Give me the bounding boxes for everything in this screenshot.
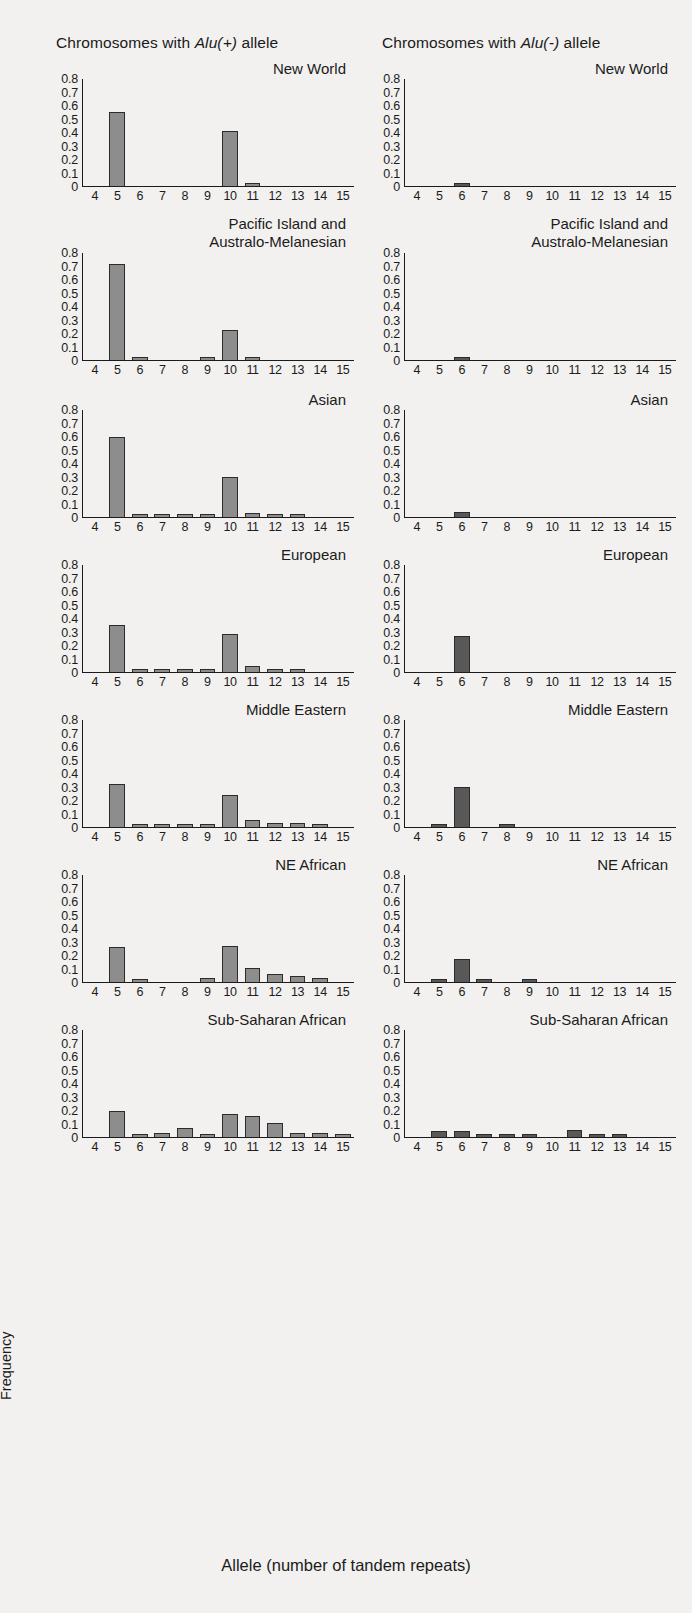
bar-slot [286,720,309,827]
panel-title: NE African [370,856,680,875]
y-tick-label: 0.8 [383,1024,400,1036]
bar [222,795,238,827]
x-tick-label: 11 [241,520,264,534]
x-tick-label: 9 [196,1140,219,1154]
y-tick-label: 0 [393,1132,400,1144]
bar-slot [241,720,264,827]
bar-slot [331,410,354,517]
y-axis-caption: Frequency [0,1331,14,1400]
x-tick-label: 4 [405,985,428,999]
bar [454,787,470,827]
bar-slot [405,79,428,186]
bar-slot [106,875,129,982]
panel-title: New World [48,60,358,79]
bar-slot [286,875,309,982]
x-tick-label: 13 [608,1140,631,1154]
bar [245,968,261,981]
y-axis-labels: 0.80.70.60.50.40.30.20.10 [370,410,400,518]
bar-slot [541,1030,564,1137]
x-axis-labels: 456789101112131415 [83,363,354,377]
panel-sub-saharan-african-alu-plus: Sub-Saharan African0.80.70.60.50.40.30.2… [48,1011,358,1138]
bar-slot [631,1030,654,1137]
x-tick-label: 5 [428,520,451,534]
y-tick-label: 0.3 [61,937,78,949]
x-tick-label: 9 [196,830,219,844]
y-tick-label: 0.4 [61,301,78,313]
bar-slot [264,253,287,360]
x-tick-label: 4 [405,675,428,689]
x-tick-label: 8 [174,189,197,203]
y-tick-label: 0.2 [383,640,400,652]
bar [267,1123,283,1136]
panel-title: New World [370,60,680,79]
y-tick-label: 0.4 [383,127,400,139]
bar [222,1114,238,1137]
bar-slot [405,1030,428,1137]
x-tick-label: 11 [563,675,586,689]
y-axis-labels: 0.80.70.60.50.40.30.20.10 [48,565,78,673]
bar-slot [128,79,151,186]
y-tick-label: 0.1 [383,809,400,821]
x-tick-label: 12 [264,675,287,689]
y-tick-label: 0.7 [383,883,400,895]
axes [82,79,354,187]
bar-series [405,565,676,672]
bar-slot [128,1030,151,1137]
x-tick-label: 13 [608,189,631,203]
x-tick-label: 5 [428,189,451,203]
panel-pacific-island-and-australo-melanesian-alu-plus: Pacific Island andAustralo-Melanesian0.8… [48,215,358,361]
bar-slot [106,565,129,672]
x-tick-label: 6 [450,363,473,377]
y-tick-label: 0.6 [61,1051,78,1063]
x-tick-label: 6 [450,520,473,534]
x-tick-label: 6 [128,520,151,534]
y-tick-label: 0.5 [61,600,78,612]
y-tick-label: 0.7 [383,418,400,430]
y-tick-label: 0 [393,181,400,193]
column-headers: Chromosomes with Alu(+) allele Chromosom… [48,34,692,52]
y-tick-label: 0.3 [383,315,400,327]
bar-slot [631,720,654,827]
bar-slot [653,1030,676,1137]
y-tick-label: 0 [71,667,78,679]
bar [222,330,238,359]
y-tick-label: 0.1 [61,964,78,976]
x-tick-label: 9 [196,520,219,534]
x-tick-label: 10 [219,675,242,689]
allele-name: Alu(-) [521,34,560,51]
x-tick-label: 4 [83,189,106,203]
y-tick-label: 0.2 [383,1105,400,1117]
bar [109,264,125,360]
x-tick-label: 5 [428,1140,451,1154]
bar-slot [586,875,609,982]
panel-title: Pacific Island andAustralo-Melanesian [48,215,358,253]
x-tick-label: 10 [541,1140,564,1154]
x-tick-label: 8 [174,830,197,844]
x-tick-label: 14 [631,363,654,377]
x-tick-label: 7 [473,520,496,534]
bar-slot [608,79,631,186]
x-tick-label: 8 [174,985,197,999]
x-tick-label: 4 [405,189,428,203]
x-axis-labels: 456789101112131415 [83,985,354,999]
bar-slot [496,875,519,982]
y-tick-label: 0.8 [61,247,78,259]
x-tick-label: 9 [518,830,541,844]
axes [404,79,676,187]
y-tick-label: 0.6 [61,741,78,753]
bar [109,947,125,982]
x-axis-line [404,982,676,983]
bar [222,477,238,517]
bar-slot [518,253,541,360]
x-tick-label: 6 [450,830,473,844]
plot-area: 0.80.70.60.50.40.30.20.10456789101112131… [48,720,358,828]
bar-slot [653,565,676,672]
bar-slot [106,1030,129,1137]
x-tick-label: 15 [331,1140,354,1154]
bar-slot [405,720,428,827]
y-tick-label: 0.3 [61,782,78,794]
y-tick-label: 0.7 [61,261,78,273]
y-tick-label: 0.8 [383,714,400,726]
axes [82,720,354,828]
bar-slot [631,875,654,982]
